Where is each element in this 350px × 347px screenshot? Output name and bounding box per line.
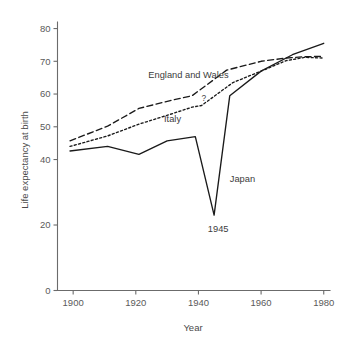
y-tick-label: 80: [40, 23, 51, 34]
x-tick-label: 1960: [251, 297, 272, 308]
series-labels: England and WalesItalyJapan: [148, 70, 255, 185]
series-label-japan: Japan: [230, 174, 255, 184]
series-label-italy: Italy: [164, 114, 181, 124]
annotation--: ?: [202, 93, 207, 103]
x-tick-label: 1900: [63, 297, 84, 308]
y-tick-label: 20: [40, 219, 51, 230]
life-expectancy-chart: 0204050607080 19001920194019601980 Engla…: [0, 0, 350, 347]
y-tick-label: 0: [45, 285, 50, 296]
series-label-england-and-wales: England and Wales: [148, 70, 229, 80]
y-tick-label: 50: [40, 121, 51, 132]
y-axis-ticks: 0204050607080: [40, 23, 58, 296]
y-tick-label: 70: [40, 56, 51, 67]
x-tick-label: 1980: [313, 297, 334, 308]
x-tick-label: 1940: [188, 297, 209, 308]
y-tick-label: 40: [40, 154, 51, 165]
x-tick-label: 1920: [125, 297, 146, 308]
y-tick-label: 60: [40, 88, 51, 99]
y-axis-title: Life expectancy at birth: [19, 111, 30, 209]
x-axis-ticks: 19001920194019601980: [63, 291, 335, 308]
x-axis-title: Year: [183, 322, 202, 333]
chart-plot-area: 0204050607080 19001920194019601980 Engla…: [0, 0, 350, 347]
annotation-1945: 1945: [208, 224, 229, 234]
